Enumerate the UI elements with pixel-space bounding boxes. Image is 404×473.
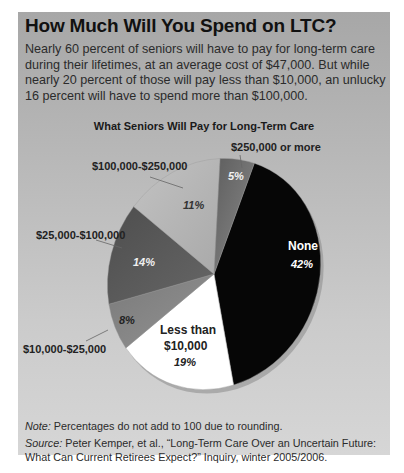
note-label: Note: <box>25 420 51 432</box>
infographic-panel: How Much Will You Spend on LTC? Nearly 6… <box>18 12 390 455</box>
label-10-25: $10,000-$25,000 <box>23 343 106 355</box>
note-text: Percentages do not add to 100 due to rou… <box>51 420 283 432</box>
pct-less-than: 19% <box>174 356 196 368</box>
label-less-than-line1: Less than <box>160 323 216 337</box>
source-text: Peter Kemper, et al., “Long-Term Care Ov… <box>25 437 376 463</box>
pct-25-100: 14% <box>133 256 155 268</box>
label-250-or-more: $250,000 or more <box>231 141 321 153</box>
footnote: Note: Percentages do not add to 100 due … <box>25 420 283 432</box>
pct-none: 42% <box>290 258 313 270</box>
pct-250: 5% <box>228 170 244 182</box>
source-label: Source: <box>25 437 62 449</box>
source-citation: Source: Peter Kemper, et al., “Long-Term… <box>25 437 387 464</box>
leader-line-10-25 <box>86 330 108 341</box>
pct-100-250: 11% <box>183 199 204 211</box>
label-100-250: $100,000-$250,000 <box>92 160 187 172</box>
pie-chart: $250,000 or more $100,000-$250,000 $25,0… <box>18 12 390 455</box>
pct-10-25: 8% <box>119 314 135 326</box>
label-less-than-line2: $10,000 <box>164 339 208 353</box>
label-25-100: $25,000-$100,000 <box>36 229 125 241</box>
label-none: None <box>288 239 318 253</box>
